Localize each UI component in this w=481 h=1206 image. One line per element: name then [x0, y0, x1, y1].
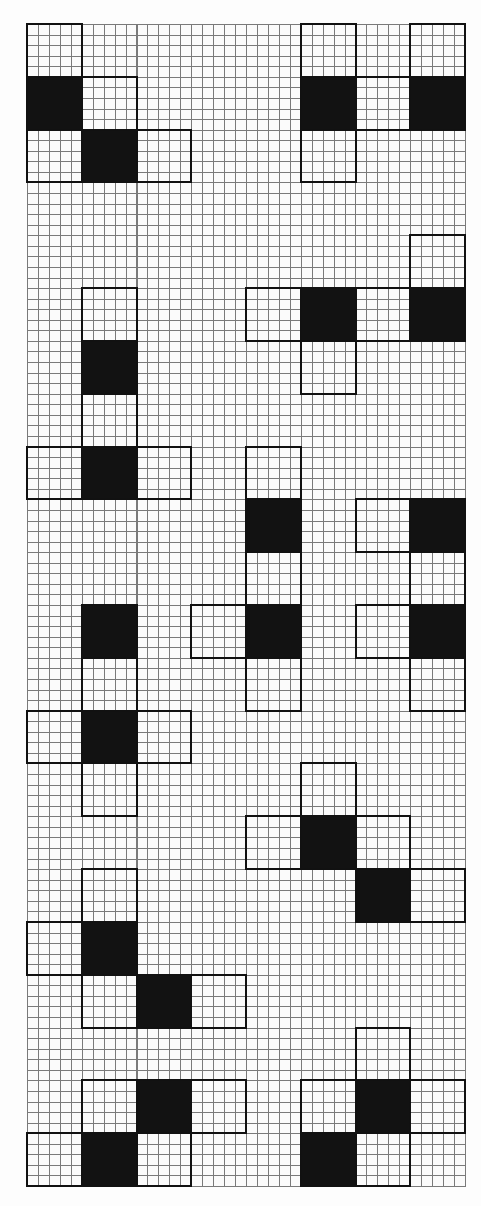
empty-square — [81, 287, 138, 342]
empty-square — [300, 23, 357, 78]
empty-square — [300, 340, 357, 395]
empty-square — [355, 1027, 412, 1082]
empty-square — [26, 129, 83, 184]
empty-square — [26, 446, 83, 501]
empty-square — [190, 1079, 247, 1134]
filled-square — [300, 1132, 357, 1187]
filled-square — [136, 974, 193, 1029]
empty-square — [81, 393, 138, 448]
empty-square — [136, 710, 193, 765]
empty-square — [81, 657, 138, 712]
empty-square — [136, 129, 193, 184]
empty-square — [355, 76, 412, 131]
empty-square — [355, 287, 412, 342]
empty-square — [355, 1132, 412, 1187]
empty-square — [409, 234, 466, 289]
filled-square — [81, 710, 138, 765]
empty-square — [355, 498, 412, 553]
filled-square — [300, 287, 357, 342]
grid-paper: Cube nets on grid paper — [27, 24, 466, 1187]
empty-square — [245, 815, 302, 870]
empty-square — [300, 762, 357, 817]
filled-square — [409, 498, 466, 553]
filled-square — [136, 1079, 193, 1134]
empty-square — [409, 657, 466, 712]
empty-square — [300, 129, 357, 184]
empty-square — [136, 446, 193, 501]
empty-square — [26, 23, 83, 78]
empty-square — [81, 974, 138, 1029]
filled-square — [409, 76, 466, 131]
empty-square — [81, 762, 138, 817]
filled-square — [81, 340, 138, 395]
filled-square — [245, 498, 302, 553]
empty-square — [245, 287, 302, 342]
filled-square — [81, 129, 138, 184]
filled-square — [409, 287, 466, 342]
empty-square — [409, 551, 466, 606]
filled-square — [26, 76, 83, 131]
empty-square — [136, 1132, 193, 1187]
empty-square — [26, 921, 83, 976]
filled-square — [245, 604, 302, 659]
empty-square — [409, 1079, 466, 1134]
filled-square — [409, 604, 466, 659]
empty-square — [245, 446, 302, 501]
empty-square — [190, 604, 247, 659]
empty-square — [409, 23, 466, 78]
filled-square — [355, 1079, 412, 1134]
empty-square — [81, 76, 138, 131]
filled-square — [81, 446, 138, 501]
empty-square — [81, 1079, 138, 1134]
empty-square — [355, 815, 412, 870]
filled-square — [300, 815, 357, 870]
filled-square — [355, 868, 412, 923]
empty-square — [245, 657, 302, 712]
empty-square — [355, 604, 412, 659]
empty-square — [26, 1132, 83, 1187]
filled-square — [300, 76, 357, 131]
empty-square — [300, 1079, 357, 1134]
filled-square — [81, 1132, 138, 1187]
empty-square — [245, 551, 302, 606]
filled-square — [81, 921, 138, 976]
empty-square — [190, 974, 247, 1029]
empty-square — [26, 710, 83, 765]
empty-square — [81, 868, 138, 923]
empty-square — [409, 868, 466, 923]
filled-square — [81, 604, 138, 659]
